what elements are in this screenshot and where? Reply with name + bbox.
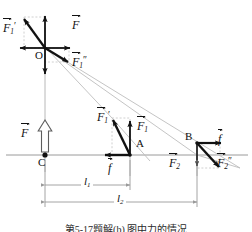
vector-label-f-A: f [108,161,111,175]
point-label-C: C [38,157,45,168]
point-C-force-arrow [38,120,52,158]
vector-label-F1-A: F1 [137,119,148,133]
vec-base: f [218,132,221,146]
vector-label-f-B: f [218,132,221,146]
vector-label-F1-prime-origin: F1′ [3,21,16,35]
vec-prime: ″ [83,54,87,65]
figure-canvas: O A B C F F1′ F1″ F1′ F1 f f F2 F2″ F l1… [0,0,252,232]
vec-sub: 2 [176,162,180,171]
vec-base: F [72,18,79,32]
vec-prime: ′ [108,109,110,120]
point-label-O: O [35,50,43,61]
vector-label-F-C: F [21,126,28,140]
vec-base: F [97,110,104,124]
figure-caption: 第5-17题解(b) 图中力的情况 [0,221,252,232]
dimension-label-l1: l1 [81,176,93,189]
vector-label-F1-dprime-origin: F1″ [72,55,87,69]
vector-label-F2-dprime-B: F2″ [217,156,232,170]
vec-base: F [137,119,144,133]
vec-base: F [21,126,28,140]
dim-sub: 1 [87,181,90,188]
vector-label-F-origin: F [72,18,79,32]
vector-label-F2-B: F2 [169,156,180,170]
dimension-label-l2: l2 [114,193,126,206]
vec-base: F [72,55,79,69]
origin-dashed-boxes [24,17,69,62]
vector-label-F1-prime-A: F1′ [97,110,110,124]
vec-base: F [217,156,224,170]
vec-prime: ″ [228,155,232,166]
dim-sub: 2 [120,198,123,205]
vec-base: f [108,161,111,175]
vec-sub: 1 [144,125,148,134]
vec-base: F [169,156,176,170]
point-label-A: A [136,138,144,149]
point-label-B: B [185,131,192,142]
vec-base: F [3,21,10,35]
vec-prime: ′ [14,20,16,31]
